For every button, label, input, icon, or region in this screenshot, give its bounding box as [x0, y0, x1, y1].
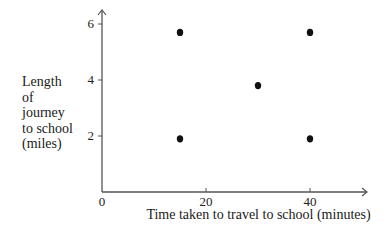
y-axis-label: Length of journey to school (miles) [22, 74, 73, 152]
x-axis-label: Time taken to travel to school (minutes) [0, 207, 389, 223]
y-tick-label: 4 [88, 72, 95, 87]
y-tick-label: 6 [88, 16, 95, 31]
data-point [177, 135, 183, 142]
data-point [307, 135, 313, 142]
y-tick-label: 2 [88, 128, 95, 143]
scatter-chart: 20400246 Length of journey to school (mi… [0, 0, 389, 238]
data-point [307, 29, 313, 36]
data-point [255, 82, 261, 89]
data-point [177, 29, 183, 36]
